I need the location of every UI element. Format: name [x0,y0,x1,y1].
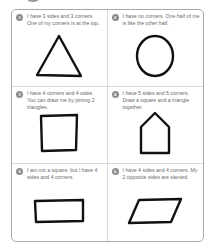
number-badge: 1 [16,14,23,21]
circle-drawing [108,30,204,82]
house-pentagon-icon [139,111,171,155]
clue-text: I have 4 sides and 4 corners. My 2 oppos… [123,167,201,181]
triangle-drawing [12,30,107,82]
clue-text: I have no corners. One half of me is lik… [123,13,201,27]
riddle-card-2: 2 I have no corners. One half of me is l… [108,10,204,87]
worksheet-heading-fragment [26,0,40,2]
triangle-icon [35,34,83,78]
parallelogram-drawing [108,184,204,237]
clue-text: I am not a square, but I have 4 sides an… [27,167,104,181]
number-badge: 5 [16,168,23,175]
circle-icon [135,34,175,78]
riddle-card-1: 1 I have 3 sides and 3 corners. One of m… [12,10,108,87]
rectangle-icon [33,199,85,223]
clue-text: I have 3 sides and 3 corners. One of my … [27,13,104,27]
riddle-card-4: 4 I have 5 sides and 5 corners. Draw a s… [108,87,204,164]
rectangle-drawing [12,184,107,237]
shape-riddle-grid: 1 I have 3 sides and 3 corners. One of m… [11,9,204,242]
riddle-card-3: 3 I have 4 corners and 4 sides. You can … [12,87,108,164]
number-badge: 6 [112,168,119,175]
number-badge: 2 [112,14,119,21]
riddle-card-5: 5 I am not a square, but I have 4 sides … [12,164,108,241]
square-drawing [12,107,107,159]
parallelogram-icon [127,198,183,224]
number-badge: 3 [16,91,23,98]
square-icon [39,114,79,152]
number-badge: 4 [112,91,119,98]
riddle-card-6: 6 I have 4 sides and 4 corners. My 2 opp… [108,164,204,241]
pentagon-drawing [108,107,204,159]
